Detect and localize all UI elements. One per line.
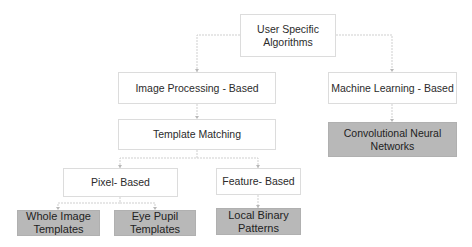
node-convolutional-neural-networks: Convolutional Neural Networks: [328, 122, 457, 157]
node-label: Networks: [371, 140, 415, 153]
node-label: Templates: [130, 223, 180, 236]
node-user-specific-algorithms: User Specific Algorithms: [240, 14, 336, 57]
node-label: Eye Pupil: [132, 210, 178, 223]
node-label: User Specific: [257, 23, 319, 36]
node-label: Template Matching: [153, 128, 241, 141]
node-label: Local Binary: [228, 209, 289, 222]
node-label: Machine Learning - Based: [331, 82, 454, 95]
node-label: Algorithms: [263, 36, 313, 49]
node-machine-learning-based: Machine Learning - Based: [328, 72, 457, 104]
node-label: Pixel- Based: [91, 176, 150, 189]
node-whole-image-templates: Whole Image Templates: [17, 210, 100, 236]
node-eye-pupil-templates: Eye Pupil Templates: [114, 210, 196, 236]
node-label: Patterns: [238, 222, 279, 235]
node-image-processing-based: Image Processing - Based: [118, 72, 276, 104]
node-label: Templates: [33, 223, 83, 236]
node-label: Convolutional Neural: [344, 127, 441, 140]
node-template-matching: Template Matching: [118, 119, 276, 150]
node-local-binary-patterns: Local Binary Patterns: [216, 208, 301, 235]
node-label: Whole Image: [26, 210, 91, 223]
node-feature-based: Feature- Based: [216, 168, 301, 195]
node-label: Feature- Based: [222, 175, 294, 188]
node-label: Image Processing - Based: [135, 82, 258, 95]
node-pixel-based: Pixel- Based: [63, 168, 178, 197]
